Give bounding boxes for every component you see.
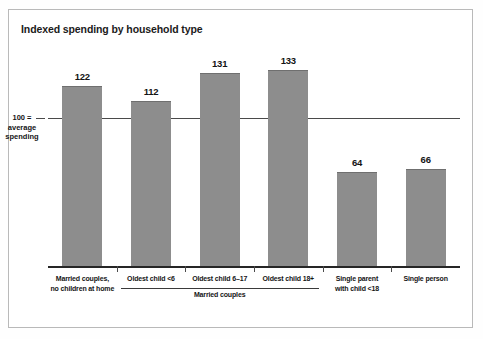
axis-tick (391, 266, 392, 272)
axis-tick (117, 266, 118, 272)
reference-line-100 (48, 118, 460, 119)
bar-value-label: 122 (48, 71, 116, 82)
bar-group: 112 (131, 52, 171, 266)
bar-group: 133 (268, 52, 308, 266)
bar[interactable] (268, 70, 308, 266)
reference-label-line-1: 100 = (0, 113, 44, 123)
group-bracket-rule (121, 288, 319, 289)
bar[interactable] (406, 169, 446, 266)
bar[interactable] (337, 172, 377, 266)
bar-value-label: 131 (186, 58, 254, 69)
plot-area: 1221121311336466 (48, 52, 460, 268)
chart-figure: Indexed spending by household type 100 =… (0, 0, 483, 339)
bar-value-label: 112 (117, 86, 185, 97)
chart-title: Indexed spending by household type (21, 23, 203, 35)
bar[interactable] (131, 101, 171, 266)
bar-group: 66 (406, 52, 446, 266)
bar-value-label: 133 (254, 55, 322, 66)
reference-label-line-3: spending (0, 132, 44, 142)
reference-axis-label: 100 = average spending (0, 113, 44, 142)
reference-label-line-2: average (0, 123, 44, 133)
axis-tick (185, 266, 186, 272)
axis-tick (254, 266, 255, 272)
category-label: Single person (384, 274, 467, 284)
group-bracket-label: Married couples (121, 291, 319, 298)
category-label-line-2: with child <18 (316, 284, 399, 294)
bar-group: 64 (337, 52, 377, 266)
bar-group: 131 (200, 52, 240, 266)
axis-tick (323, 266, 324, 272)
bar[interactable] (62, 86, 102, 266)
bar[interactable] (200, 73, 240, 266)
category-label-line-1: Single person (384, 274, 467, 284)
category-label-line-2: no children at home (41, 284, 124, 294)
bar-value-label: 66 (392, 154, 460, 165)
bar-value-label: 64 (323, 157, 391, 168)
bar-group: 122 (62, 52, 102, 266)
